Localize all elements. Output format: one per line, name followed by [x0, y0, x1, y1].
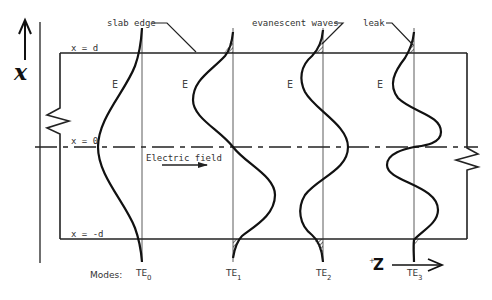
mode-reference-lines: [142, 28, 414, 262]
modes-label: Modes:: [90, 270, 122, 280]
x-axis-arrow-icon: [19, 20, 31, 60]
electric-field-label: Electric field: [146, 153, 222, 163]
svg-text:1: 1: [237, 274, 241, 282]
slab-edge-label: slab edge: [107, 18, 156, 28]
z-axis-label: Z: [373, 256, 384, 274]
x-eq-d-label: x = d: [71, 43, 98, 53]
svg-text:TE: TE: [315, 268, 327, 278]
mode-label-te1: TE 1: [225, 268, 241, 282]
svg-text:0: 0: [147, 274, 151, 282]
svg-text:TE: TE: [406, 268, 418, 278]
mode-label-te0: TE 0: [135, 268, 151, 282]
evanescent-waves-label: evanescent waves: [252, 18, 339, 28]
svg-text:TE: TE: [225, 268, 237, 278]
x-eq-neg-d-label: x = -d: [71, 229, 104, 239]
mode-label-te3: TE 3: [406, 268, 422, 282]
leak-label: leak: [363, 18, 385, 28]
te0-e-label: E: [112, 79, 118, 90]
x-eq-0-label: x = 0: [71, 136, 98, 146]
mode-label-te2: TE 2: [315, 268, 331, 282]
te1-e-label: E: [182, 79, 188, 90]
te3-e-label: E: [377, 79, 383, 90]
svg-text:2: 2: [327, 274, 331, 282]
svg-text:3: 3: [418, 274, 422, 282]
x-axis-label: x: [13, 59, 28, 85]
te2-field-curve: [300, 30, 348, 262]
svg-text:TE: TE: [135, 268, 147, 278]
te0-field-curve: [98, 28, 142, 262]
te2-e-label: E: [287, 79, 293, 90]
waveguide-mode-diagram: x slab edge evanescent wa: [0, 0, 492, 300]
te1-field-curve: [193, 32, 275, 258]
